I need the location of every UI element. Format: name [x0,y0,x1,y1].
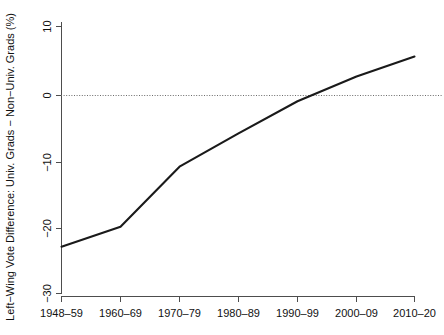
x-tick-label-1960-69: 1960–69 [99,307,142,319]
y-axis-title: Left−Wing Vote Difference: Univ. Grads −… [4,13,16,321]
x-tick-label-1990-99: 1990–99 [276,307,319,319]
chart-figure: 10 0 −10 −20 −30 Left−Wing Vote Differen… [0,0,444,335]
y-tick-label-minus10: −10 [41,153,53,172]
y-tick-label-minus20: −20 [41,219,53,238]
y-tick-label-0: 0 [41,92,53,98]
y-tick-label-10: 10 [41,20,53,32]
line-chart-canvas: 10 0 −10 −20 −30 Left−Wing Vote Differen… [0,0,444,335]
x-tick-label-1980-89: 1980–89 [217,307,260,319]
x-tick-label-1970-79: 1970–79 [158,307,201,319]
y-tick-label-minus30: −30 [41,284,53,303]
x-tick-label-2000-09: 2000–09 [335,307,378,319]
x-tick-label-1948-59: 1948–59 [40,307,83,319]
data-series-line [62,57,415,247]
x-tick-label-2010-20: 2010–20 [393,307,436,319]
